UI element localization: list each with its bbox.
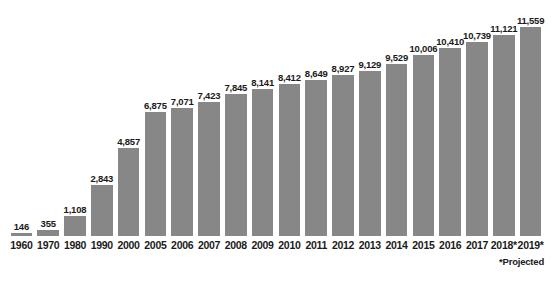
bar-value-label: 4,857 — [117, 136, 140, 147]
bar-group: 9,129 — [359, 0, 380, 236]
bar-value-label: 9,129 — [358, 59, 381, 70]
x-axis-tick-1960: 1960 — [8, 238, 35, 252]
bar[interactable] — [11, 233, 32, 236]
bar[interactable] — [466, 42, 487, 236]
bar-value-label: 8,141 — [251, 77, 274, 88]
bar-value-label: 11,121 — [490, 23, 517, 34]
x-axis-tick-2000: 2000 — [115, 238, 142, 252]
bar[interactable] — [171, 108, 192, 236]
x-axis-tick-2012: 2012 — [330, 238, 357, 252]
bar-chart: 1463551,1082,8434,8576,8757,0717,4237,84… — [0, 0, 552, 281]
bar[interactable] — [118, 148, 139, 236]
bar[interactable] — [225, 94, 246, 236]
bar[interactable] — [439, 48, 460, 236]
bar[interactable] — [359, 71, 380, 236]
x-axis-labels: 1960197019801990200020052006200720082009… — [8, 238, 544, 254]
bar[interactable] — [413, 55, 434, 236]
bar-value-label: 8,412 — [278, 72, 301, 83]
x-axis-tick-2011: 2011 — [303, 238, 330, 252]
plot-area: 1463551,1082,8434,8576,8757,0717,4237,84… — [8, 0, 544, 236]
bar[interactable] — [91, 185, 112, 236]
x-axis-tick-1990: 1990 — [88, 238, 115, 252]
bar-group: 10,739 — [466, 0, 487, 236]
bar-value-label: 7,845 — [224, 82, 247, 93]
x-axis-tick-2017: 2017 — [464, 238, 491, 252]
bar-group: 8,649 — [305, 0, 326, 236]
x-axis-tick-2015: 2015 — [410, 238, 437, 252]
bar-group: 1,108 — [64, 0, 85, 236]
bar[interactable] — [145, 112, 166, 236]
x-axis-tick-2013: 2013 — [356, 238, 383, 252]
bar-value-label: 7,071 — [171, 96, 194, 107]
chart-footnote: *Projected — [499, 256, 544, 267]
bar[interactable] — [386, 64, 407, 236]
x-axis-tick-2009: 2009 — [249, 238, 276, 252]
bar-group: 10,006 — [413, 0, 434, 236]
x-axis-tick-1980: 1980 — [62, 238, 89, 252]
x-axis-tick-2016: 2016 — [437, 238, 464, 252]
x-axis-tick-2005: 2005 — [142, 238, 169, 252]
bar-group: 10,410 — [439, 0, 460, 236]
x-axis-tick-2007: 2007 — [196, 238, 223, 252]
x-axis-tick-2019: 2019* — [517, 238, 544, 252]
bar-value-label: 1,108 — [64, 204, 87, 215]
bar-value-label: 355 — [41, 218, 56, 229]
bar-value-label: 10,410 — [436, 36, 464, 47]
bar-group: 11,121 — [493, 0, 514, 236]
bar-value-label: 7,423 — [198, 90, 221, 101]
bar[interactable] — [279, 84, 300, 236]
bar-group: 146 — [11, 0, 32, 236]
bar-group: 7,845 — [225, 0, 246, 236]
bar-group: 7,423 — [198, 0, 219, 236]
x-axis-tick-2018: 2018* — [490, 238, 517, 252]
bar-value-label: 10,006 — [409, 43, 437, 54]
bar[interactable] — [493, 35, 514, 236]
bar-value-label: 11,559 — [517, 15, 544, 26]
bar-group: 355 — [37, 0, 58, 236]
bar-group: 4,857 — [118, 0, 139, 236]
bar[interactable] — [332, 75, 353, 236]
bar[interactable] — [37, 230, 58, 236]
bar-group: 11,559 — [520, 0, 541, 236]
bar-group: 8,141 — [252, 0, 273, 236]
bar-group: 9,529 — [386, 0, 407, 236]
bar-value-label: 10,739 — [463, 30, 491, 41]
bar-group: 6,875 — [145, 0, 166, 236]
bar[interactable] — [520, 27, 541, 236]
bar-value-label: 8,649 — [305, 68, 328, 79]
bar-value-label: 9,529 — [385, 52, 408, 63]
bar-group: 8,927 — [332, 0, 353, 236]
x-axis-tick-2010: 2010 — [276, 238, 303, 252]
x-axis-tick-1970: 1970 — [35, 238, 62, 252]
bar[interactable] — [305, 80, 326, 236]
x-axis-tick-2006: 2006 — [169, 238, 196, 252]
bar-value-label: 8,927 — [332, 63, 355, 74]
bar-group: 8,412 — [279, 0, 300, 236]
bar-value-label: 2,843 — [90, 173, 113, 184]
bar[interactable] — [198, 102, 219, 236]
bar-group: 7,071 — [171, 0, 192, 236]
bar[interactable] — [252, 89, 273, 236]
x-axis-tick-2008: 2008 — [222, 238, 249, 252]
x-axis-tick-2014: 2014 — [383, 238, 410, 252]
bar-group: 2,843 — [91, 0, 112, 236]
bar[interactable] — [64, 216, 85, 236]
bar-value-label: 146 — [14, 221, 29, 232]
bar-value-label: 6,875 — [144, 100, 167, 111]
